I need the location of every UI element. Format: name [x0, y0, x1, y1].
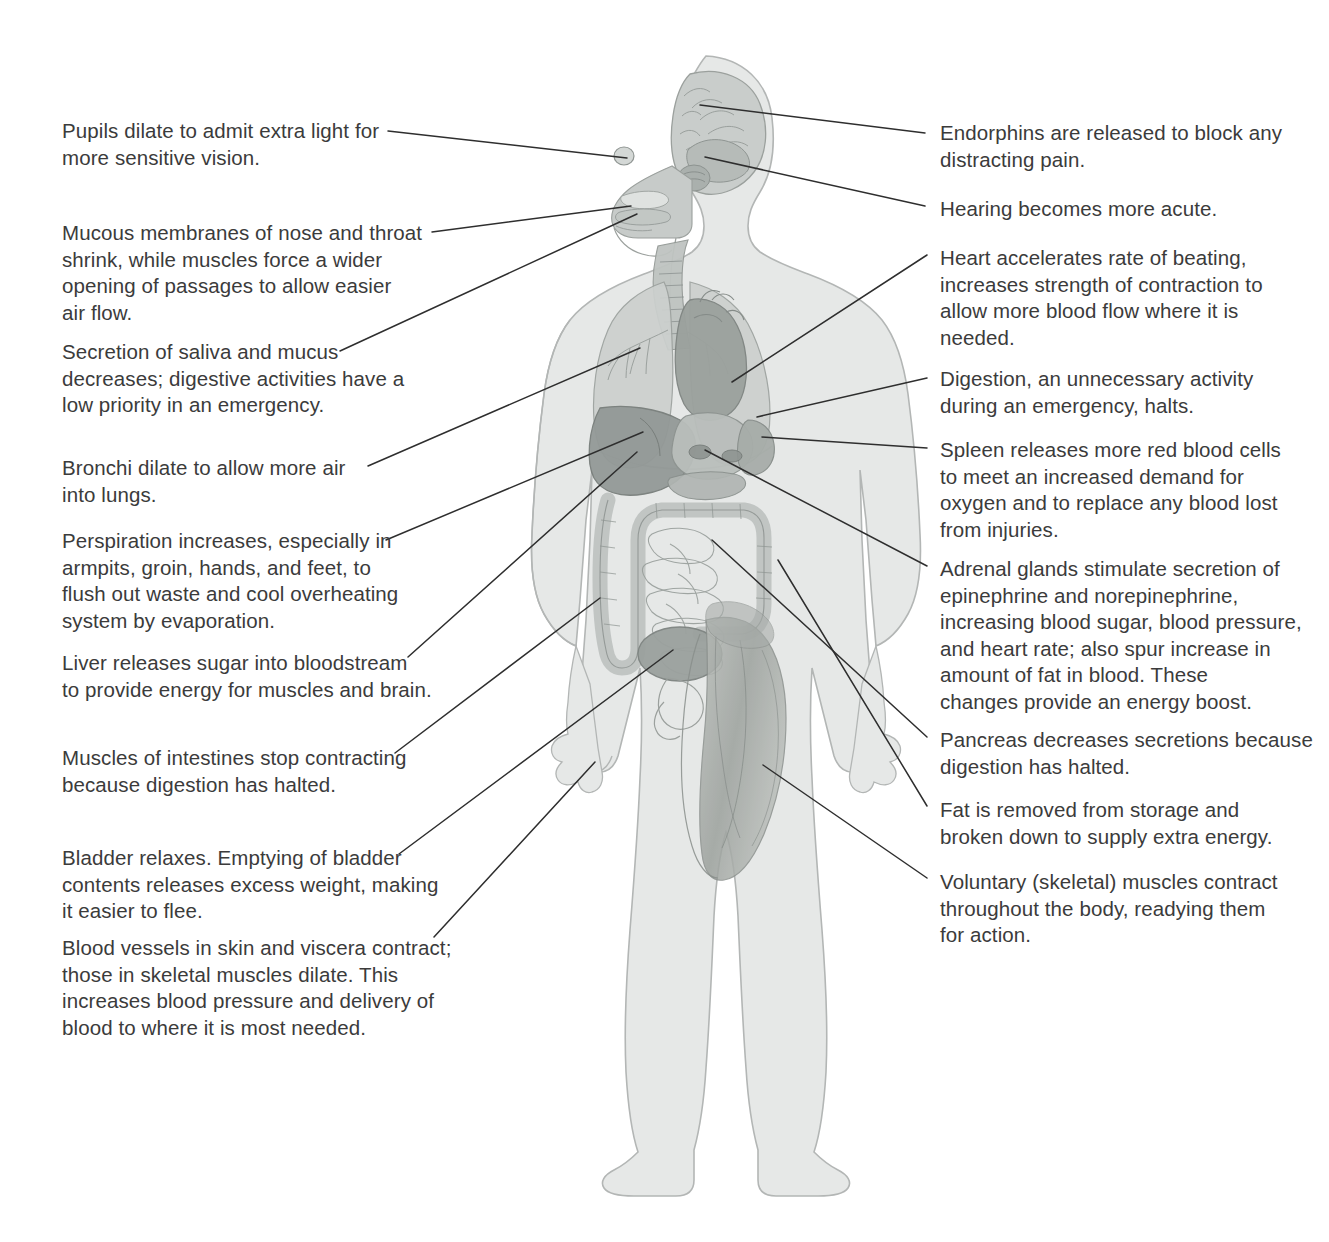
body-silhouette — [532, 56, 921, 1196]
leader-line-adrenal — [705, 450, 927, 566]
callout-pancreas: Pancreas decreases secretions because di… — [940, 727, 1320, 780]
callout-voluntary-muscles: Voluntary (skeletal) muscles contract th… — [940, 869, 1315, 949]
callout-fat: Fat is removed from storage and broken d… — [940, 797, 1315, 850]
leader-line-heart — [732, 255, 927, 382]
callout-mucous-membranes: Mucous membranes of nose and throat shri… — [62, 220, 452, 326]
brain-region — [612, 72, 766, 350]
leader-line-pancreas — [712, 540, 927, 737]
callout-liver: Liver releases sugar into bloodstream to… — [62, 650, 462, 703]
callout-saliva-mucus: Secretion of saliva and mucus decreases;… — [62, 339, 452, 419]
callout-bladder: Bladder relaxes. Emptying of bladder con… — [62, 845, 462, 925]
callout-spleen: Spleen releases more red blood cells to … — [940, 437, 1315, 543]
callout-heart: Heart accelerates rate of beating, incre… — [940, 245, 1310, 351]
leader-line-pupils — [388, 131, 627, 158]
leader-line-perspiration — [386, 432, 643, 540]
leader-line-spleen — [762, 437, 927, 448]
leader-line-mucous-membranes — [432, 206, 631, 232]
callout-perspiration: Perspiration increases, especially in ar… — [62, 528, 452, 634]
leader-line-endorphins — [700, 105, 925, 133]
callout-digestion: Digestion, an unnecessary activity durin… — [940, 366, 1310, 419]
callout-adrenal: Adrenal glands stimulate secretion of ep… — [940, 556, 1325, 715]
callout-blood-vessels: Blood vessels in skin and viscera contra… — [62, 935, 472, 1041]
callout-hearing: Hearing becomes more acute. — [940, 196, 1300, 223]
diagram-page: Pupils dilate to admit extra light for m… — [0, 0, 1329, 1242]
thorax-organs — [594, 282, 772, 469]
leader-line-voluntary-muscles — [763, 765, 927, 878]
leader-line-hearing — [705, 157, 925, 206]
callout-intestines: Muscles of intestines stop contracting b… — [62, 745, 457, 798]
leader-line-fat — [778, 560, 927, 806]
abdomen-organs — [589, 407, 774, 740]
callout-pupils: Pupils dilate to admit extra light for m… — [62, 118, 417, 171]
skeletal-muscles — [681, 602, 786, 881]
callout-endorphins: Endorphins are released to block any dis… — [940, 120, 1300, 173]
callout-bronchi: Bronchi dilate to allow more air into lu… — [62, 455, 417, 508]
leader-line-digestion — [757, 378, 927, 417]
